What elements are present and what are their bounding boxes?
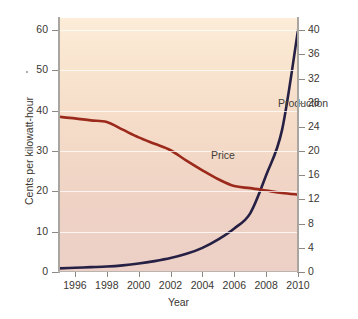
x-axis-tick-label: 2000	[122, 279, 156, 291]
right-axis-tick-label: 36	[308, 47, 334, 59]
bottom-axis-line	[58, 271, 299, 272]
right-axis-tick	[299, 30, 305, 31]
x-axis-title: Year	[59, 296, 298, 308]
chart-root: Price Production 0102030405060 048121620…	[0, 0, 358, 319]
price-series-label: Price	[211, 149, 235, 161]
left-axis-tick-label: 0	[22, 265, 48, 277]
left-axis-tick	[52, 191, 58, 192]
x-axis-tick-label: 1998	[90, 279, 124, 291]
left-axis-tick	[52, 70, 58, 71]
right-axis-tick-label: 20	[308, 144, 334, 156]
right-axis-tick-label: 32	[308, 72, 334, 84]
plot-area: Price Production	[59, 18, 298, 272]
right-axis-tick	[299, 175, 305, 176]
right-axis-tick	[299, 54, 305, 55]
right-axis-tick-label: 0	[308, 265, 334, 277]
gridline	[59, 30, 298, 31]
right-axis-tick	[299, 127, 305, 128]
right-axis-tick	[299, 248, 305, 249]
right-axis-tick	[299, 199, 305, 200]
x-axis-tick	[202, 272, 203, 277]
right-axis-tick-label: 8	[308, 217, 334, 229]
x-axis-tick	[298, 272, 299, 277]
left-axis-tick	[52, 30, 58, 31]
x-axis-tick-label: 2002	[154, 279, 188, 291]
x-axis-tick	[234, 272, 235, 277]
gridline	[59, 111, 298, 112]
right-axis-tick-label: 16	[308, 168, 334, 180]
x-axis-tick-label: 2006	[217, 279, 251, 291]
left-axis-tick-label: 60	[22, 23, 48, 35]
x-axis-tick-label: 1996	[58, 279, 92, 291]
right-axis-line	[297, 17, 299, 273]
gridline	[59, 191, 298, 192]
x-axis-tick	[107, 272, 108, 277]
left-axis-tick	[52, 111, 58, 112]
x-axis-tick-label: 2008	[249, 279, 283, 291]
x-axis-tick	[139, 272, 140, 277]
x-axis-tick	[171, 272, 172, 277]
right-axis-tick-label: 4	[308, 241, 334, 253]
right-axis-tick	[299, 151, 305, 152]
x-axis-tick	[75, 272, 76, 277]
left-axis-tick	[52, 272, 58, 273]
right-axis-tick	[299, 272, 305, 273]
series-layer	[59, 18, 298, 272]
right-axis-tick	[299, 224, 305, 225]
x-axis-tick-label: 2010	[281, 279, 315, 291]
x-axis-tick	[266, 272, 267, 277]
left-axis-tick	[52, 232, 58, 233]
right-axis-tick-label: 12	[308, 192, 334, 204]
right-axis-tick	[299, 79, 305, 80]
right-axis-tick-label: 40	[308, 23, 334, 35]
left-axis-line	[58, 17, 60, 273]
gridline	[59, 232, 298, 233]
x-axis-tick-label: 2004	[185, 279, 219, 291]
right-axis-tick	[299, 103, 305, 104]
gridline	[59, 70, 298, 71]
right-axis-tick-label: 24	[308, 120, 334, 132]
left-axis-title: Cents per kilowatt-hour	[23, 66, 35, 236]
right-axis-tick-label: 28	[308, 96, 334, 108]
left-axis-tick	[52, 151, 58, 152]
gridline	[59, 151, 298, 152]
